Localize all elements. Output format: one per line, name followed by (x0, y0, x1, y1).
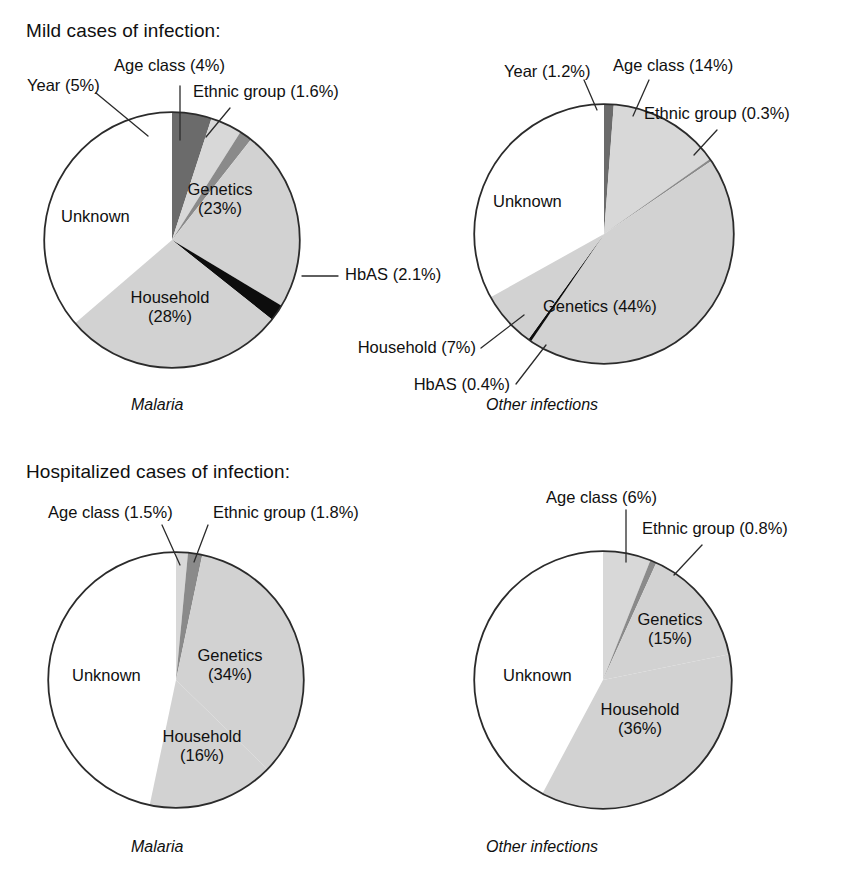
label-p3-household-pct: (16%) (180, 746, 224, 764)
label-p2-household: Household (7%) (300, 338, 476, 357)
section-title-hospitalized: Hospitalized cases of infection: (26, 461, 290, 483)
label-p4-household-pct: (36%) (618, 719, 662, 737)
caption-p3: Malaria (131, 838, 183, 856)
label-p4-genetics-name: Genetics (637, 610, 702, 628)
label-p4-ethnic-group: Ethnic group (0.8%) (642, 519, 788, 538)
label-p3-household: Household (16%) (142, 727, 262, 765)
label-p2-ethnic-group: Ethnic group (0.3%) (644, 104, 790, 123)
label-p3-genetics: Genetics (34%) (180, 646, 280, 684)
label-p3-ethnic-group: Ethnic group (1.8%) (213, 503, 359, 522)
label-p3-genetics-pct: (34%) (208, 665, 252, 683)
label-p3-unknown: Unknown (72, 666, 141, 685)
caption-p2: Other infections (486, 396, 598, 414)
label-p1-genetics-pct: (23%) (198, 199, 242, 217)
label-p1-household-pct: (28%) (148, 307, 192, 325)
label-p1-genetics: Genetics (23%) (170, 180, 270, 218)
label-p2-unknown: Unknown (493, 192, 562, 211)
figure-root: Mild cases of infection: Hospitalized ca… (0, 0, 843, 879)
label-p1-year: Year (5%) (27, 76, 100, 95)
label-p4-household-name: Household (601, 700, 680, 718)
label-p2-genetics: Genetics (44%) (543, 297, 657, 316)
label-p1-age-class: Age class (4%) (114, 56, 225, 75)
label-p1-household-name: Household (131, 288, 210, 306)
label-p4-unknown: Unknown (503, 666, 572, 685)
label-p3-genetics-name: Genetics (197, 646, 262, 664)
pie-chart-mild-malaria (43, 111, 301, 369)
label-p1-household: Household (28%) (110, 288, 230, 326)
label-p2-hbas: HbAS (0.4%) (330, 375, 510, 394)
label-p2-age-class: Age class (14%) (613, 56, 733, 75)
label-p3-household-name: Household (163, 727, 242, 745)
label-p4-household: Household (36%) (580, 700, 700, 738)
label-p2-year: Year (1.2%) (504, 62, 591, 81)
label-p4-genetics: Genetics (15%) (620, 610, 720, 648)
section-title-mild: Mild cases of infection: (26, 20, 221, 42)
label-p3-age-class: Age class (1.5%) (48, 503, 173, 522)
label-p1-unknown: Unknown (61, 207, 130, 226)
label-p4-genetics-pct: (15%) (648, 629, 692, 647)
caption-p4: Other infections (486, 838, 598, 856)
label-p4-age-class: Age class (6%) (546, 488, 657, 507)
label-p1-hbas: HbAS (2.1%) (345, 265, 441, 284)
label-p1-ethnic-group: Ethnic group (1.6%) (193, 82, 339, 101)
pie-chart-mild-other (473, 103, 735, 365)
label-p1-genetics-name: Genetics (187, 180, 252, 198)
caption-p1: Malaria (131, 396, 183, 414)
